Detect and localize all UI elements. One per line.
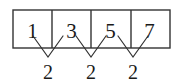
- difference-label-1: 2: [86, 61, 96, 83]
- array-difference-diagram: 1 3 5 7 2 2 2: [0, 0, 181, 84]
- difference-label-2: 2: [128, 61, 138, 83]
- diagram-canvas: 1 3 5 7 2 2 2: [0, 0, 181, 84]
- array-cell-value-0: 1: [27, 19, 38, 43]
- array-cell-value-2: 5: [105, 19, 116, 43]
- difference-label-0: 2: [43, 61, 53, 83]
- array-cell-value-1: 3: [66, 19, 77, 43]
